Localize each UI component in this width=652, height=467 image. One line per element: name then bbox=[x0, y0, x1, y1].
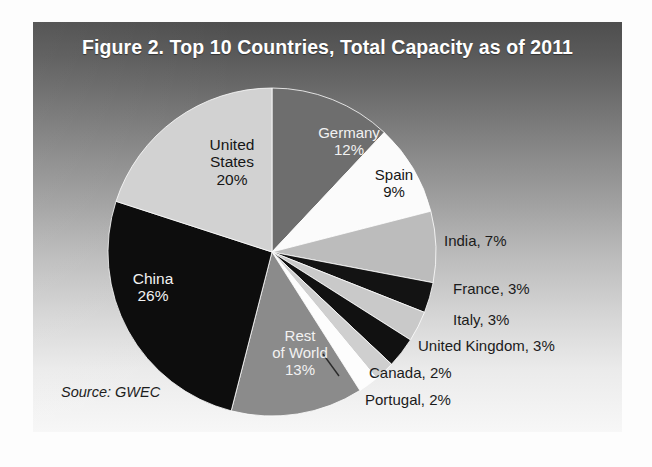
slice-callout-india: India, 7% bbox=[444, 232, 507, 249]
slice-callout-france: France, 3% bbox=[453, 280, 530, 297]
slice-callout-italy: Italy, 3% bbox=[453, 311, 509, 328]
figure-canvas: Figure 2. Top 10 Countries, Total Capaci… bbox=[0, 0, 652, 467]
pie-chart-svg bbox=[33, 22, 622, 432]
slice-callout-united-kingdom: United Kingdom, 3% bbox=[418, 337, 555, 354]
chart-panel: Figure 2. Top 10 Countries, Total Capaci… bbox=[33, 22, 622, 432]
pie-chart bbox=[33, 22, 622, 432]
slice-callout-canada: Canada, 2% bbox=[369, 364, 452, 381]
source-note: Source: GWEC bbox=[61, 384, 160, 400]
slice-callout-portugal: Portugal, 2% bbox=[365, 391, 451, 408]
